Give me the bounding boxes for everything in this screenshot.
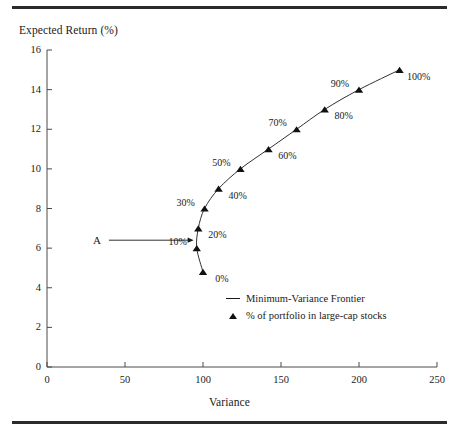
- triangle-key-icon: [222, 313, 244, 319]
- point-label-70pct: 70%: [268, 117, 286, 128]
- y-tick-16: 16: [15, 44, 41, 55]
- point-label-80pct: 80%: [335, 110, 353, 121]
- x-tick-250: 250: [417, 374, 457, 385]
- legend-item-frontier: Minimum-Variance Frontier: [222, 290, 387, 307]
- point-label-60pct: 60%: [278, 150, 296, 161]
- legend-item-portfolio: % of portfolio in large-cap stocks: [222, 307, 387, 324]
- line-key-icon: [222, 298, 244, 299]
- x-tick-200: 200: [339, 374, 379, 385]
- figure-container: Expected Return (%) Variance 02468101214…: [0, 0, 459, 434]
- point-label-50pct: 50%: [212, 156, 230, 167]
- y-tick-10: 10: [15, 163, 41, 174]
- plot-area: [0, 0, 459, 434]
- y-tick-14: 14: [15, 84, 41, 95]
- x-tick-50: 50: [105, 374, 145, 385]
- point-label-40pct: 40%: [228, 189, 246, 200]
- legend-label-frontier: Minimum-Variance Frontier: [244, 290, 365, 307]
- frontier-curve: [196, 70, 399, 272]
- y-tick-4: 4: [15, 282, 41, 293]
- y-tick-2: 2: [15, 321, 41, 332]
- point-label-100pct: 100%: [407, 70, 430, 81]
- x-tick-100: 100: [183, 374, 223, 385]
- x-tick-150: 150: [261, 374, 301, 385]
- y-tick-6: 6: [15, 242, 41, 253]
- point-label-10pct: 10%: [169, 236, 187, 247]
- y-tick-0: 0: [15, 361, 41, 372]
- point-label-0pct: 0%: [215, 272, 228, 283]
- point-label-30pct: 30%: [176, 196, 194, 207]
- legend: Minimum-Variance Frontier % of portfolio…: [222, 290, 387, 324]
- x-tick-0: 0: [27, 374, 67, 385]
- y-tick-12: 12: [15, 123, 41, 134]
- legend-label-portfolio: % of portfolio in large-cap stocks: [244, 307, 387, 324]
- point-label-20pct: 20%: [208, 229, 226, 240]
- annotation-label-a: A: [93, 234, 101, 246]
- y-tick-8: 8: [15, 203, 41, 214]
- point-label-90pct: 90%: [331, 77, 349, 88]
- data-markers: [193, 67, 404, 275]
